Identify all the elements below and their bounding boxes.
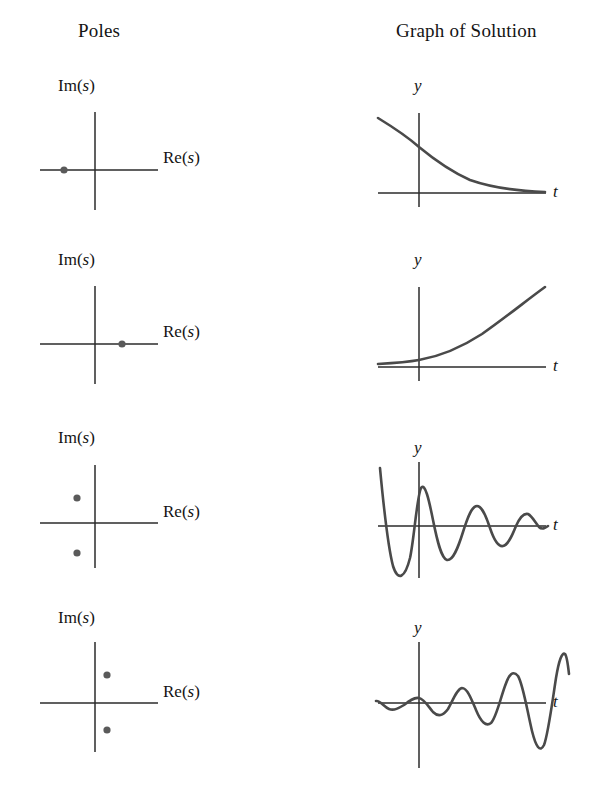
row2-pole-marker-1 bbox=[118, 340, 125, 347]
row4-solution-curve bbox=[376, 654, 569, 749]
row3-plots bbox=[0, 448, 598, 578]
row1-plots bbox=[0, 95, 598, 210]
row2-imaginary-axis-label: Im(s) bbox=[58, 250, 95, 270]
row3-solution-curve bbox=[380, 468, 548, 576]
row4-pole-marker-1 bbox=[103, 671, 110, 678]
column-header-poles: Poles bbox=[78, 20, 120, 42]
row2-y-axis-label: y bbox=[414, 250, 422, 270]
row3-pole-marker-2 bbox=[73, 549, 80, 556]
row4-pole-marker-2 bbox=[103, 726, 110, 733]
poles-and-solutions-figure: Poles Graph of Solution Im(s) Re(s) y t … bbox=[0, 0, 598, 785]
row3-pole-marker-1 bbox=[73, 494, 80, 501]
row2-plots bbox=[0, 269, 598, 384]
row3-imaginary-axis-label: Im(s) bbox=[58, 428, 95, 448]
row1-pole-marker-1 bbox=[60, 166, 67, 173]
row1-solution-curve bbox=[378, 118, 545, 192]
row1-y-axis-label: y bbox=[414, 76, 422, 96]
row4-imaginary-axis-label: Im(s) bbox=[58, 608, 95, 628]
column-header-graph-of-solution: Graph of Solution bbox=[396, 20, 537, 42]
row1-imaginary-axis-label: Im(s) bbox=[58, 76, 95, 96]
row2-solution-curve bbox=[378, 287, 545, 364]
row4-plots bbox=[0, 628, 598, 773]
